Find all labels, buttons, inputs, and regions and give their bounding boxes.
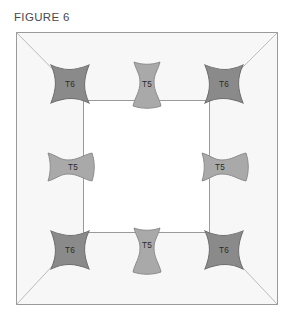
- figure-page: FIGURE 6 T6 T5 T6: [0, 0, 294, 321]
- edge-key-top-center-label: T5: [142, 80, 152, 89]
- corner-key-bottom-left-label: T6: [65, 246, 75, 255]
- edge-key-middle-left-label: T5: [68, 163, 78, 172]
- figure-diagram: T6 T5 T6 T5 T5 T6: [0, 0, 294, 321]
- corner-key-top-left-label: T6: [65, 80, 75, 89]
- corner-key-bottom-right-label: T6: [219, 246, 229, 255]
- inner-square-opening: [84, 101, 210, 233]
- edge-key-middle-right-label: T5: [215, 163, 225, 172]
- edge-key-bottom-center-label: T5: [142, 241, 152, 250]
- corner-key-top-right-label: T6: [219, 80, 229, 89]
